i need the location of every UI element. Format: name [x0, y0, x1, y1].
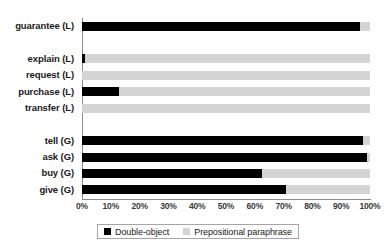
x-axis-tick-label: 20%: [131, 201, 147, 211]
bar-row: [82, 136, 370, 145]
y-axis-labels: guarantee (L)explain (L)request (L)purch…: [0, 18, 78, 198]
bar-segment-prepositional-paraphrase: [82, 104, 370, 113]
bar-row: [82, 22, 370, 31]
y-axis-label: ask (G): [42, 151, 74, 162]
x-axis-line: [82, 199, 371, 200]
x-axis-tick-label: 10%: [103, 201, 119, 211]
bar-row: [82, 104, 370, 113]
y-axis-label: buy (G): [41, 167, 74, 178]
chart-legend: Double-object Prepositional paraphrase: [97, 224, 299, 239]
x-axis-tick-label: 40%: [189, 201, 205, 211]
black-square-icon: [104, 228, 111, 235]
x-axis-tick-label: 0%: [76, 201, 88, 211]
bar-segment-prepositional-paraphrase: [360, 22, 370, 31]
gray-square-icon: [183, 228, 190, 235]
bar-segment-double-object: [82, 136, 363, 145]
bar-segment-prepositional-paraphrase: [85, 54, 370, 63]
x-axis-tick-label: 50%: [218, 201, 234, 211]
bar-segment-double-object: [82, 22, 360, 31]
y-axis-label: explain (L): [28, 53, 74, 64]
bar-segment-double-object: [82, 169, 262, 178]
bar-segment-double-object: [82, 153, 367, 162]
y-axis-label: guarantee (L): [15, 20, 74, 31]
bar-chart: guarantee (L)explain (L)request (L)purch…: [0, 0, 392, 249]
bar-segment-prepositional-paraphrase: [367, 153, 370, 162]
legend-entry-double-object: Double-object: [104, 227, 169, 237]
bar-row: [82, 87, 370, 96]
x-axis-tick-label: 60%: [247, 201, 263, 211]
bar-row: [82, 54, 370, 63]
bar-segment-double-object: [82, 185, 286, 194]
plot-area: [82, 18, 370, 198]
bar-row: [82, 185, 370, 194]
x-axis-tick-label: 80%: [304, 201, 320, 211]
x-axis-tick-label: 100%: [360, 201, 381, 211]
bar-row: [82, 153, 370, 162]
bar-rows: [82, 18, 370, 198]
bar-segment-prepositional-paraphrase: [363, 136, 370, 145]
y-axis-label: tell (G): [45, 135, 74, 146]
bar-row: [82, 71, 370, 80]
x-axis-tick-label: 30%: [160, 201, 176, 211]
bar-segment-prepositional-paraphrase: [286, 185, 370, 194]
bar-segment-prepositional-paraphrase: [82, 71, 370, 80]
x-axis-tick-label: 90%: [333, 201, 349, 211]
y-axis-label: purchase (L): [18, 86, 74, 97]
bar-row: [82, 169, 370, 178]
bar-segment-prepositional-paraphrase: [262, 169, 370, 178]
legend-label-prepositional-paraphrase: Prepositional paraphrase: [194, 227, 292, 237]
bar-segment-double-object: [82, 87, 119, 96]
y-axis-label: request (L): [26, 69, 74, 80]
x-axis-tick-labels: 0%10%20%30%40%50%60%70%80%90%100%: [82, 201, 370, 215]
x-axis-tick-label: 70%: [275, 201, 291, 211]
legend-entry-prepositional-paraphrase: Prepositional paraphrase: [183, 227, 292, 237]
y-axis-label: give (G): [39, 184, 74, 195]
legend-label-double-object: Double-object: [115, 227, 169, 237]
y-axis-label: transfer (L): [25, 102, 74, 113]
bar-segment-prepositional-paraphrase: [119, 87, 370, 96]
